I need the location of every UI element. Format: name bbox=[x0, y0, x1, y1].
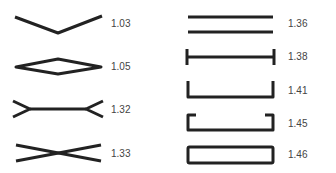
double-bar-shape bbox=[188, 17, 273, 32]
u-channel-shape bbox=[188, 81, 273, 97]
value-label-v-shape: 1.03 bbox=[111, 18, 130, 30]
hollow-rectangle-shape bbox=[188, 147, 273, 163]
value-label-lipped-channel: 1.45 bbox=[288, 118, 307, 130]
value-label-hollow-rectangle: 1.46 bbox=[288, 149, 307, 161]
lens-diamond-shape bbox=[16, 59, 101, 74]
value-label-crossed-x: 1.33 bbox=[111, 148, 130, 160]
crossed-x-shape bbox=[16, 145, 101, 161]
v-shape bbox=[15, 16, 102, 33]
lipped-channel-shape bbox=[188, 115, 273, 130]
value-label-forked-bar: 1.32 bbox=[111, 104, 130, 116]
value-label-u-channel: 1.41 bbox=[288, 85, 307, 97]
value-label-double-bar: 1.36 bbox=[288, 18, 307, 30]
value-label-i-beam: 1.38 bbox=[288, 51, 307, 63]
forked-bar-shape bbox=[13, 101, 103, 117]
i-beam-shape bbox=[187, 49, 274, 65]
shape-factor-diagram: 1.03 1.05 1.32 1.33 1.36 1.38 1.41 1.45 … bbox=[0, 0, 336, 173]
value-label-lens-diamond: 1.05 bbox=[111, 61, 130, 73]
shapes-svg bbox=[0, 0, 336, 173]
